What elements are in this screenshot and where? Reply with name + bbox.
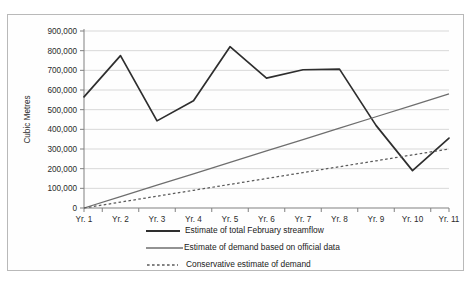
y-axis-label: Cubic Metres <box>23 95 32 143</box>
x-tick-label: Yr. 11 <box>439 215 460 224</box>
x-tick-label: Yr. 4 <box>185 215 202 224</box>
x-tick-label: Yr. 8 <box>331 215 348 224</box>
x-tick-label: Yr. 9 <box>368 215 385 224</box>
series-line-official-demand <box>84 94 449 208</box>
y-axis-title: Cubic Metres <box>23 95 32 143</box>
x-tick-label: Yr. 3 <box>149 215 166 224</box>
y-tick-label: 800,000 <box>47 47 77 56</box>
y-tick-label: 600,000 <box>47 86 77 95</box>
chart-legend: Estimate of total February streamflowEst… <box>146 225 340 269</box>
y-tick-label: 200,000 <box>47 165 77 174</box>
gridlines <box>84 31 449 188</box>
chart-frame: 900,000800,000700,000600,000500,000400,0… <box>7 14 464 271</box>
x-tick-label: Yr. 1 <box>76 215 93 224</box>
series-line-conservative-demand <box>84 149 449 208</box>
x-tick-label: Yr. 2 <box>112 215 129 224</box>
y-tick-label: 0 <box>72 204 77 213</box>
series-lines <box>84 47 449 208</box>
y-tick-label: 100,000 <box>47 184 77 193</box>
x-tick-label: Yr. 7 <box>295 215 312 224</box>
y-tick-label: 500,000 <box>47 106 77 115</box>
line-chart: 900,000800,000700,000600,000500,000400,0… <box>8 15 465 272</box>
legend-label: Conservative estimate of demand <box>186 259 311 269</box>
y-tick-label: 900,000 <box>47 27 77 36</box>
legend-label: Estimate of demand based on official dat… <box>184 242 340 252</box>
x-tick-label: Yr. 5 <box>222 215 239 224</box>
y-tick-label: 400,000 <box>47 125 77 134</box>
x-axis: Yr. 1Yr. 2Yr. 3Yr. 4Yr. 5Yr. 6Yr. 7Yr. 8… <box>76 208 460 224</box>
x-tick-label: Yr. 10 <box>402 215 424 224</box>
y-tick-label: 300,000 <box>47 145 77 154</box>
x-tick-label: Yr. 6 <box>258 215 275 224</box>
series-line-streamflow <box>84 47 449 171</box>
y-axis: 900,000800,000700,000600,000500,000400,0… <box>47 27 84 213</box>
y-tick-label: 700,000 <box>47 66 77 75</box>
legend-label: Estimate of total February streamflow <box>185 225 325 235</box>
